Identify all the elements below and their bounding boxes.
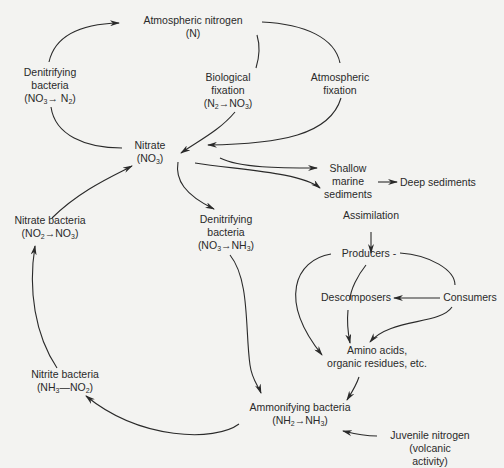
label-line: Juvenile nitrogen [382, 429, 478, 442]
formula: (NH3—NO2) [24, 381, 106, 394]
node-shallow-marine-sediments: Shallow marine sediments [320, 162, 376, 201]
label-line: Nitrate [126, 139, 174, 152]
formula: (NO3→ N2) [14, 92, 86, 105]
node-producers: Producers - [336, 247, 402, 260]
label-line: Nitrate bacteria [4, 214, 96, 227]
formula: (N2→NO3) [198, 97, 258, 110]
label-line: Consumers [440, 291, 500, 304]
label-line: bacteria [14, 79, 86, 92]
node-amino-acids: Amino acids, organic residues, etc. [322, 344, 432, 370]
label-line: Deep sediments [400, 176, 490, 189]
label-line: Shallow [320, 162, 376, 175]
label-line: Denitrifying [14, 66, 86, 79]
label-line: Descomposers [318, 291, 394, 304]
node-ammonifying-bacteria: Ammonifying bacteria (NH2→NH3) [245, 401, 355, 427]
label-line: fixation [198, 84, 258, 97]
formula: (NH2→NH3) [245, 414, 355, 427]
label-line: Assimilation [331, 209, 411, 222]
label-line: Ammonifying bacteria [245, 401, 355, 414]
node-assimilation: Assimilation [331, 209, 411, 222]
label-line: Biological [198, 71, 258, 84]
label-line: sediments [320, 188, 376, 201]
label-line: Producers - [336, 247, 402, 260]
label-line: organic residues, etc. [322, 357, 432, 370]
label-line: activity) [382, 455, 478, 468]
node-denitrifying-bacteria-top: Denitrifying bacteria (NO3→ N2) [14, 66, 86, 105]
label-line: (N) [138, 27, 248, 40]
node-nitrate: Nitrate (NO3) [126, 139, 174, 165]
node-decomposers: Descomposers [318, 291, 394, 304]
label-line: bacteria [190, 226, 262, 239]
label-line: Atmospheric nitrogen [138, 14, 248, 27]
label-line: Denitrifying [190, 213, 262, 226]
node-deep-sediments: Deep sediments [400, 176, 490, 189]
label-line: Nitrite bacteria [24, 368, 106, 381]
label-line: marine [320, 175, 376, 188]
node-nitrate-bacteria: Nitrate bacteria (NO2→NO3) [4, 214, 96, 240]
node-biological-fixation: Biological fixation (N2→NO3) [198, 71, 258, 110]
node-atmospheric-nitrogen: Atmospheric nitrogen (N) [138, 14, 248, 40]
node-nitrite-bacteria: Nitrite bacteria (NH3—NO2) [24, 368, 106, 394]
formula: (NO2→NO3) [4, 227, 96, 240]
node-atmospheric-fixation: Atmospheric fixation [305, 71, 375, 97]
formula: (NO3→NH3) [190, 239, 262, 252]
label-line: (volcanic [382, 442, 478, 455]
label-line: fixation [305, 84, 375, 97]
node-consumers: Consumers [440, 291, 500, 304]
node-juvenile-nitrogen: Juvenile nitrogen (volcanic activity) [382, 429, 478, 468]
label-line: Atmospheric [305, 71, 375, 84]
node-denitrifying-bacteria-mid: Denitrifying bacteria (NO3→NH3) [190, 213, 262, 252]
label-line: Amino acids, [322, 344, 432, 357]
formula: (NO3) [126, 152, 174, 165]
